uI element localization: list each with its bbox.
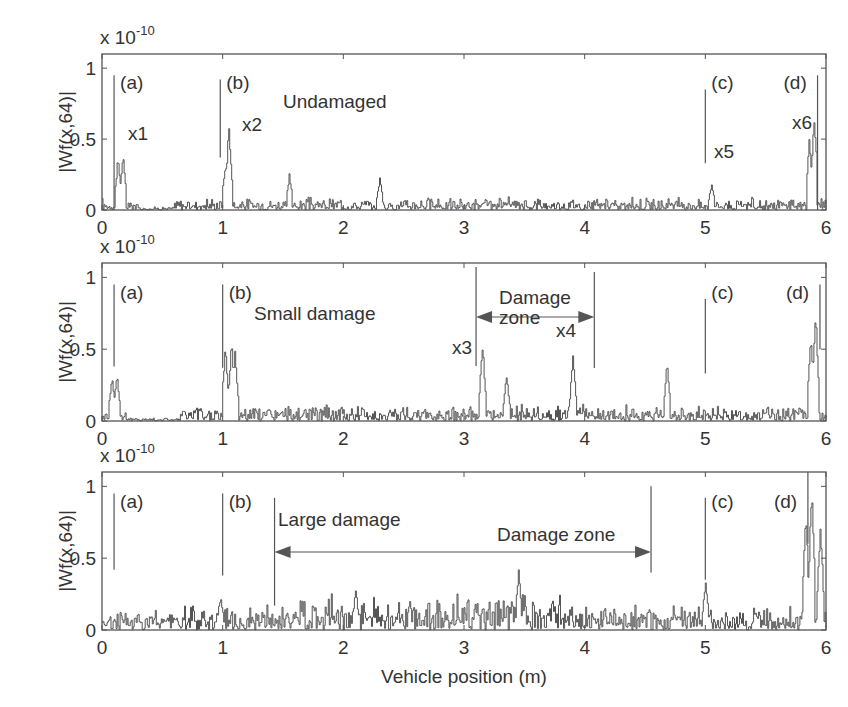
marker-label: (b): [229, 491, 252, 512]
x-tick-label: 2: [338, 637, 349, 658]
panel-title: Small damage: [254, 303, 375, 324]
x-tick-label: 5: [700, 217, 711, 238]
marker-label: (b): [229, 282, 252, 303]
marker-label: (b): [226, 72, 249, 93]
y-tick-label: 0: [85, 411, 96, 432]
marker-label: (a): [120, 491, 143, 512]
marker-label: (d): [774, 491, 797, 512]
y-exponent-label: x 10-10: [100, 441, 155, 466]
panel-title: Large damage: [278, 509, 401, 530]
y-axis-title: |Wf(x,64)|: [55, 301, 76, 383]
x-tick-label: 6: [821, 217, 832, 238]
x-tick-label: 3: [459, 637, 470, 658]
signal-trace: [102, 123, 826, 210]
arrow-left-icon: [476, 311, 492, 323]
x-tick-label: 3: [459, 217, 470, 238]
panel-small-damage: 012345600.51x 10-10|Wf(x,64)|(a)(b)(c)(d…: [55, 232, 831, 449]
y-tick-label: 1: [85, 267, 96, 288]
point-annotation: x6: [792, 112, 812, 133]
y-exponent-label: x 10-10: [100, 232, 155, 257]
y-tick-label: 1: [85, 476, 96, 497]
marker-label: (c): [711, 491, 733, 512]
x-tick-label: 4: [579, 637, 590, 658]
x-tick-label: 0: [97, 217, 108, 238]
damage-zone-label: Damage: [499, 287, 571, 308]
x-tick-label: 2: [338, 428, 349, 449]
panel-undamaged: 012345600.51x 10-10|Wf(x,64)|(a)(b)(c)(d…: [55, 23, 831, 238]
arrow-right-icon: [635, 546, 651, 558]
y-axis-title: |Wf(x,64)|: [55, 510, 76, 592]
marker-label: (a): [120, 282, 143, 303]
x-tick-label: 0: [97, 637, 108, 658]
marker-label: (d): [786, 282, 809, 303]
point-annotation: x1: [128, 123, 148, 144]
arrow-right-icon: [578, 311, 594, 323]
marker-label: (a): [120, 72, 143, 93]
x-tick-label: 1: [217, 637, 228, 658]
marker-label: (d): [784, 72, 807, 93]
y-tick-label: 0: [85, 620, 96, 641]
y-axis-title: |Wf(x,64)|: [55, 91, 76, 173]
x-tick-label: 2: [338, 217, 349, 238]
point-annotation: x2: [242, 114, 262, 135]
damage-zone-label: Damage zone: [497, 524, 615, 545]
panel-large-damage: 012345600.51x 10-10|Wf(x,64)|(a)(b)(c)(d…: [55, 441, 831, 658]
y-exponent-label: x 10-10: [100, 23, 155, 48]
x-tick-label: 6: [821, 428, 832, 449]
x-tick-label: 6: [821, 637, 832, 658]
x-tick-label: 5: [700, 428, 711, 449]
y-tick-label: 0: [85, 200, 96, 221]
point-annotation: x5: [714, 141, 734, 162]
x-tick-label: 1: [217, 217, 228, 238]
panel-title: Undamaged: [283, 91, 387, 112]
x-axis-title: Vehicle position (m): [381, 666, 547, 687]
figure: 012345600.51x 10-10|Wf(x,64)|(a)(b)(c)(d…: [0, 0, 848, 707]
x-tick-label: 4: [579, 428, 590, 449]
x-tick-label: 4: [579, 217, 590, 238]
arrow-left-icon: [275, 546, 291, 558]
marker-label: (c): [711, 72, 733, 93]
point-annotation: x4: [556, 320, 577, 341]
damage-zone-label-line2: zone: [499, 307, 540, 328]
signal-trace: [102, 503, 826, 630]
point-annotation: x3: [452, 337, 472, 358]
x-tick-label: 3: [459, 428, 470, 449]
x-tick-label: 1: [217, 428, 228, 449]
x-tick-label: 5: [700, 637, 711, 658]
y-tick-label: 1: [85, 58, 96, 79]
marker-label: (c): [711, 282, 733, 303]
